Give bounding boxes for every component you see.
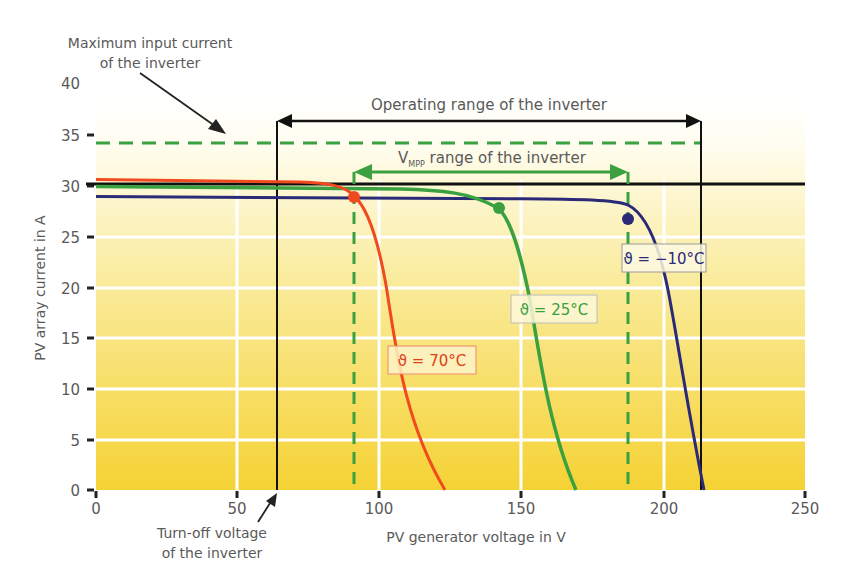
label-minus10c: ϑ = −10°C [622,244,706,272]
y-tick-label: 20 [61,280,80,298]
y-tick-label: 25 [61,229,80,247]
label-70c: ϑ = 70°C [388,346,476,374]
turn-off-pointer-arrow [258,493,277,522]
mpp-point-25c [493,202,505,214]
x-axis-title: PV generator voltage in V [386,529,566,545]
svg-text:ϑ = 70°C: ϑ = 70°C [398,352,466,370]
operating-range-label: Operating range of the inverter [371,96,608,114]
x-tick-label: 200 [650,500,679,518]
max-current-annotation-line1: Maximum input current [68,35,233,51]
y-tick-label: 30 [61,178,80,196]
vmpp-range-label: VMPP range of the inverter [398,149,587,169]
x-tick-label: 100 [365,500,394,518]
x-tick-label: 150 [507,500,536,518]
svg-text:ϑ = −10°C: ϑ = −10°C [623,250,704,268]
svg-text:ϑ = 25°C: ϑ = 25°C [520,301,588,319]
max-current-annotation-line2: of the inverter [100,55,201,71]
mpp-point-70c [348,191,360,203]
iv-curve-chart: 0 5 10 15 20 25 30 35 40 0 50 100 150 20… [0,0,848,574]
y-tick-label: 5 [70,432,80,450]
y-tick-label: 0 [70,482,80,500]
turn-off-annotation-line2: of the inverter [162,545,263,561]
x-tick-label: 50 [227,500,246,518]
turn-off-annotation-line1: Turn-off voltage [156,525,267,541]
y-tick-label: 15 [61,330,80,348]
x-tick-label: 0 [91,500,101,518]
y-tick-label: 10 [61,381,80,399]
label-25c: ϑ = 25°C [511,295,597,323]
y-axis [87,135,94,490]
x-axis [96,491,805,498]
x-tick-label: 250 [791,500,820,518]
y-tick-label: 40 [61,75,80,93]
mpp-point-minus10c [622,213,634,225]
y-axis-title: PV array current in A [32,215,48,361]
y-tick-label: 35 [61,127,80,145]
